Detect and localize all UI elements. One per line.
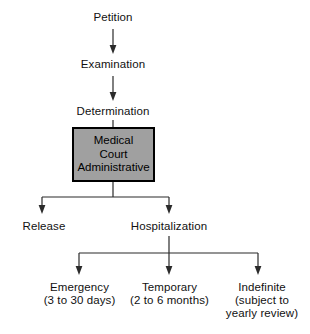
node-examination: Examination [53,58,173,71]
process-box-line-court: Court [99,148,127,162]
arrowhead-release [39,205,46,214]
node-release: Release [8,220,80,233]
process-box-line-medical: Medical [94,134,134,148]
arrowhead-temporary [166,266,173,275]
arrowhead-indefinite [255,266,262,275]
arrowhead-emergency [76,266,83,275]
node-indefinite: Indefinite (subject to yearly review) [217,281,307,320]
arrowhead-hospitalization [166,205,173,214]
process-box-line-administrative: Administrative [77,161,149,175]
process-box-medical-court-administrative: Medical Court Administrative [72,127,155,182]
node-temporary: Temporary (2 to 6 months) [113,281,226,307]
arrowhead-determination [110,92,117,101]
node-petition: Petition [53,11,173,24]
node-hospitalization: Hospitalization [114,220,224,233]
node-determination: Determination [48,105,178,118]
arrowhead-examination [110,45,117,54]
flowchart-figure: Petition Examination Determination Medic… [0,0,310,334]
